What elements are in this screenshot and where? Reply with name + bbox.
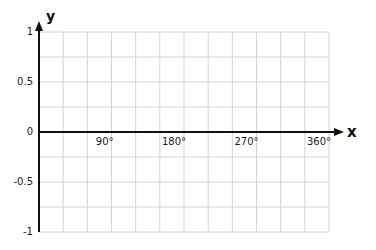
x-tick-label: 180°	[162, 136, 186, 147]
x-tick-label: 360°	[307, 136, 331, 147]
y-tick-label: 1	[27, 26, 33, 37]
y-tick-labels: 10.50-0.5-1	[13, 26, 33, 237]
chart-canvas: 10.50-0.5-1 90°180°270°360° y x	[0, 0, 376, 250]
x-tick-label: 270°	[234, 136, 258, 147]
y-tick-label: 0.5	[17, 76, 33, 87]
x-axis-arrow-icon	[334, 128, 344, 136]
y-axis-label: y	[46, 8, 55, 24]
y-tick-label: -1	[23, 226, 33, 237]
y-tick-label: 0	[27, 126, 33, 137]
y-axis-arrow-icon	[35, 21, 43, 31]
x-tick-label: 90°	[96, 136, 114, 147]
x-tick-labels: 90°180°270°360°	[96, 136, 331, 147]
y-tick-label: -0.5	[13, 176, 33, 187]
x-axis-label: x	[347, 123, 357, 141]
axes	[35, 21, 344, 232]
